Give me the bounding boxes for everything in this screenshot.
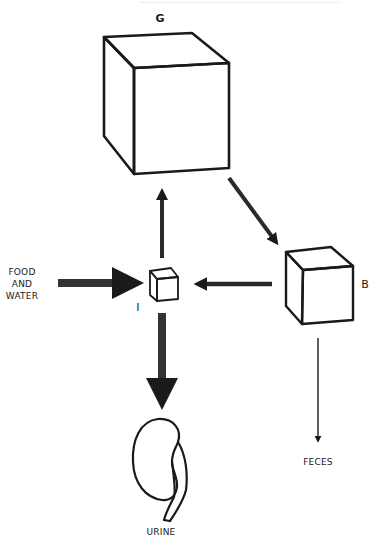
input-label-line-2: AND	[0, 278, 44, 290]
input-label-line-1: FOOD	[0, 266, 44, 278]
arrow-g-to-b	[229, 178, 276, 242]
input-label-line-3: WATER	[0, 290, 44, 302]
compartment-diagram: G I B FOOD AND WATER FECES URINE	[0, 0, 374, 541]
cube-b-icon	[286, 247, 353, 324]
cube-i-icon	[150, 268, 178, 301]
output-label-feces: FECES	[295, 456, 341, 468]
output-label-urine: URINE	[138, 526, 184, 538]
compartment-label-i: I	[131, 302, 145, 314]
compartment-label-g: G	[150, 13, 170, 25]
kidney-icon	[133, 419, 187, 521]
compartment-label-b: B	[358, 279, 372, 291]
input-label-food-water: FOOD AND WATER	[0, 266, 44, 302]
cube-g-icon	[104, 33, 229, 174]
